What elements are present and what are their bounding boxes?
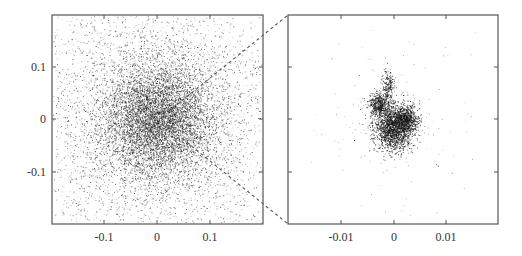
left-y-tick-label: 0.1 <box>31 60 46 74</box>
right-scatter-points <box>311 30 476 216</box>
left-y-tick-label: 0 <box>40 112 46 126</box>
left-x-tick-label: -0.1 <box>95 230 114 244</box>
figure: -0.1 0 0.1 0.1 0 -0.1 -0.01 0 0.01 <box>0 0 522 256</box>
zoom-indicator <box>168 15 288 224</box>
right-y-ticks <box>288 67 498 172</box>
left-x-tick-label: 0.1 <box>203 230 218 244</box>
right-x-ticks <box>341 15 446 224</box>
left-scatter-panel: -0.1 0 0.1 0.1 0 -0.1 <box>27 15 263 244</box>
right-plot-frame <box>288 15 498 224</box>
right-scatter-panel: -0.01 0 0.01 <box>288 15 498 244</box>
right-x-tick-label: 0.01 <box>436 230 457 244</box>
left-scatter-points <box>53 16 263 224</box>
left-x-tick-label: 0 <box>154 230 160 244</box>
left-y-tick-label: -0.1 <box>27 165 46 179</box>
right-x-tick-label: 0 <box>391 230 397 244</box>
right-x-tick-label: -0.01 <box>329 230 354 244</box>
